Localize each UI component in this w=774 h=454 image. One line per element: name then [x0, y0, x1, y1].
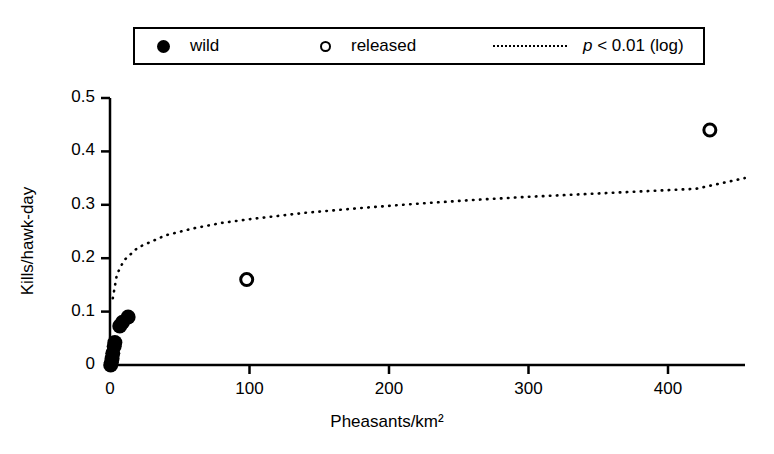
y-axis-label: Kills/hawk-day	[18, 151, 38, 331]
fit-curve-line	[113, 178, 745, 298]
y-tick-label: 0.4	[49, 140, 95, 160]
data-points	[103, 124, 716, 372]
x-tick-label: 400	[638, 379, 698, 399]
y-tick-label: 0.3	[49, 194, 95, 214]
x-tick-label: 200	[359, 379, 419, 399]
x-axis-label: Pheasants/km²	[0, 412, 774, 432]
chart-figure: wild released p < 0.01 (log) 00.10.20.30…	[0, 0, 774, 454]
y-tick-label: 0.1	[49, 301, 95, 321]
axes	[110, 98, 745, 365]
y-tick-label: 0.2	[49, 247, 95, 267]
y-tick-label: 0.5	[49, 87, 95, 107]
y-tick-label: 0	[49, 354, 95, 374]
x-tick-label: 300	[499, 379, 559, 399]
x-tick-label: 0	[80, 379, 140, 399]
tick-marks	[101, 98, 668, 374]
x-tick-label: 100	[220, 379, 280, 399]
